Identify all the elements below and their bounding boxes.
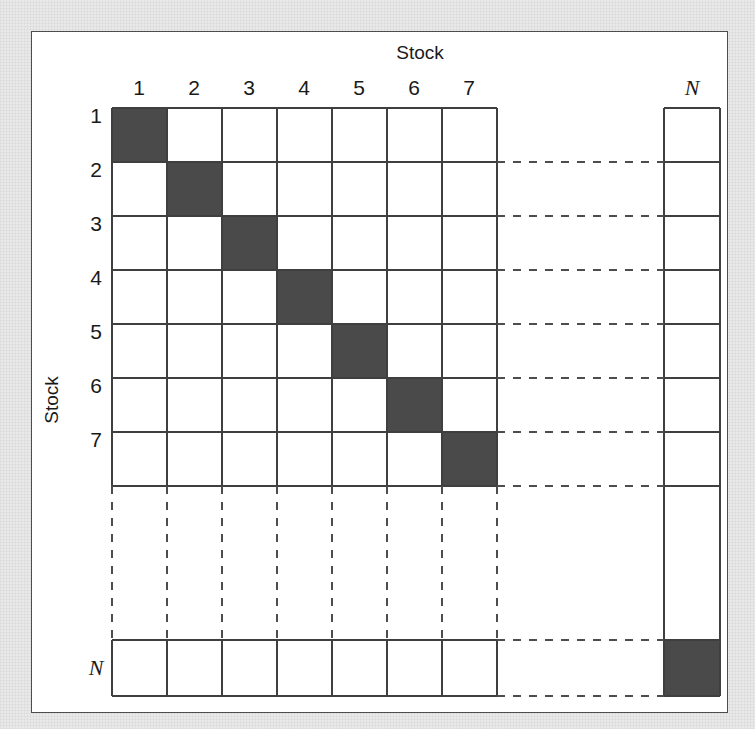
cell-2-2 <box>167 162 222 216</box>
dashed-vertical-gap-group <box>112 486 497 640</box>
column-header-3: 3 <box>243 76 255 99</box>
row-header-1: 1 <box>90 104 102 127</box>
row-header-N: N <box>88 655 105 680</box>
row-header-2: 2 <box>90 158 102 181</box>
left-axis-title: Stock <box>41 376 62 424</box>
cell-N-N <box>664 640 720 696</box>
column-header-4: 4 <box>298 76 310 99</box>
column-header-5: 5 <box>353 76 365 99</box>
row-header-5: 5 <box>90 320 102 343</box>
n-column-lines <box>664 108 720 696</box>
column-header-7: 7 <box>463 76 475 99</box>
row-header-group: 1 2 3 4 5 6 7 N <box>88 104 105 680</box>
cell-1-1 <box>112 108 167 162</box>
row-header-7: 7 <box>90 428 102 451</box>
figure-page: Stock Stock 1 2 3 4 5 6 7 N 1 2 3 4 5 <box>0 0 755 729</box>
cell-6-6 <box>387 378 442 432</box>
figure-card: Stock Stock 1 2 3 4 5 6 7 N 1 2 3 4 5 <box>31 31 728 713</box>
diagonal-cells-group <box>112 108 720 696</box>
dashed-horizontal-gap-group <box>497 162 664 696</box>
cell-7-7 <box>442 432 497 486</box>
cell-4-4 <box>277 270 332 324</box>
column-header-2: 2 <box>188 76 200 99</box>
matrix-diagram: Stock Stock 1 2 3 4 5 6 7 N 1 2 3 4 5 <box>32 32 726 711</box>
column-header-6: 6 <box>408 76 420 99</box>
n-row-lines <box>112 640 497 696</box>
column-header-group: 1 2 3 4 5 6 7 N <box>133 75 701 100</box>
row-header-3: 3 <box>90 212 102 235</box>
cell-5-5 <box>332 324 387 378</box>
cell-3-3 <box>222 216 277 270</box>
column-header-1: 1 <box>133 76 145 99</box>
top-axis-title: Stock <box>396 42 444 63</box>
row-header-4: 4 <box>90 266 102 289</box>
row-header-6: 6 <box>90 374 102 397</box>
column-header-N: N <box>684 75 701 100</box>
